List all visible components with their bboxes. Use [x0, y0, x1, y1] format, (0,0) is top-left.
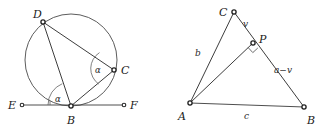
point-label-B-right: B: [306, 114, 315, 127]
vertex-B: [69, 104, 73, 108]
point-label-C-right: C: [219, 6, 228, 19]
segment-D-C: [43, 22, 114, 70]
right-figure-group: C P A B v b a−v c: [177, 6, 315, 127]
vertex-C: [112, 68, 116, 72]
geometry-figure-pair: D C B E F α α C P A B: [0, 0, 324, 128]
vertex-C-right: [232, 10, 236, 14]
segment-label-a-minus-v: a−v: [274, 65, 292, 75]
point-label-D: D: [32, 8, 42, 21]
segment-A-B: [190, 103, 304, 107]
angle-label-alpha-at-C: α: [95, 65, 101, 75]
angle-label-alpha-at-B: α: [55, 94, 61, 104]
point-label-A: A: [177, 110, 186, 123]
circumscribed-circle: [25, 14, 117, 106]
endpoint-E: [20, 103, 24, 107]
vertex-A: [188, 101, 192, 105]
geometry-svg-canvas: D C B E F α α C P A B: [0, 0, 324, 128]
vertex-B-right: [302, 105, 306, 109]
endpoint-F: [122, 103, 126, 107]
segment-label-v: v: [243, 19, 248, 29]
right-angle-marker-at-P: [248, 48, 258, 53]
point-label-E: E: [7, 99, 16, 112]
segment-label-c: c: [244, 111, 249, 121]
point-label-F: F: [129, 99, 138, 112]
vertex-P: [251, 41, 255, 45]
point-label-C: C: [121, 64, 130, 77]
point-label-B: B: [66, 114, 75, 127]
segment-label-b: b: [195, 48, 201, 58]
left-figure-group: D C B E F α α: [7, 8, 138, 127]
point-label-P: P: [258, 33, 267, 46]
